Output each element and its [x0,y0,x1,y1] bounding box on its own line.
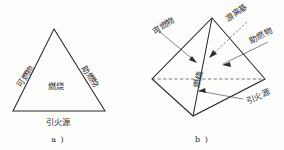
panel-b-center-label-group: 燃烧 [191,70,204,88]
panel-b-group: 燃烧 可燃物 游离基 助燃物 引火源 [150,1,273,144]
panel-b-upper-left-label: 可燃物 [150,15,176,37]
panel-b-upper-left-label-group: 可燃物 [150,15,176,37]
leader-line-oxidizer [223,42,268,64]
panel-b-lower-right-label-group: 引火源 [245,87,272,105]
panel-a-center-label: 燃烧 [48,81,64,91]
panel-a-bottom-edge-label: 引火源 [46,117,71,127]
panel-b-top-center-label: 游离基 [223,1,249,24]
panel-b-caption: b ) [195,135,209,144]
panel-a-group: 可燃物 助燃物 燃烧 引火源 a ) [13,29,105,144]
figure-canvas: 可燃物 助燃物 燃烧 引火源 a ) 燃烧 [0,0,284,150]
panel-b-top-center-label-group: 游离基 [223,1,249,24]
panel-a-caption: a ) [51,135,64,144]
panel-b-upper-right-label: 助燃物 [247,25,273,45]
panel-b-upper-right-label-group: 助燃物 [247,25,273,45]
panel-b-center-label: 燃烧 [191,70,204,88]
leader-arrow-oxidizer [222,62,231,67]
panel-b-lower-right-label: 引火源 [245,87,272,105]
figure-page: 可燃物 助燃物 燃烧 引火源 a ) 燃烧 [0,0,284,150]
panel-a-left-edge-label: 可燃物 [15,63,37,89]
panel-a-left-label-group: 可燃物 [15,63,37,89]
tetrahedron-front-edge [193,18,212,116]
